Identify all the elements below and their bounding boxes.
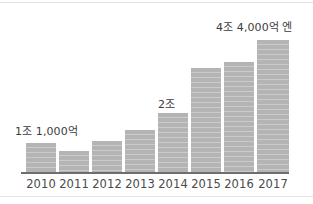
x-tick-label-2017: 2017 — [256, 177, 290, 191]
x-tick-label-2010: 2010 — [24, 177, 58, 191]
x-tick-label-2012: 2012 — [90, 177, 124, 191]
bar-2011 — [59, 151, 89, 172]
x-tick-label-2016: 2016 — [222, 177, 256, 191]
bar-chart-card: 2010 2011 2012 2013 2014 2015 2016 2017 … — [0, 0, 313, 204]
x-tick-label-2015: 2015 — [189, 177, 223, 191]
bar-2015 — [191, 68, 221, 172]
x-tick-label-2014: 2014 — [156, 177, 190, 191]
bar-2010 — [26, 143, 56, 172]
bar-2013 — [125, 130, 155, 172]
bar-2017 — [257, 40, 289, 172]
data-label-2017: 4조 4,000억 엔 — [216, 18, 293, 34]
data-label-2010: 1조 1,000억 — [15, 122, 78, 138]
bar-2016 — [224, 62, 254, 172]
bar-2012 — [92, 141, 122, 172]
bar-2014 — [158, 113, 188, 172]
x-tick-label-2011: 2011 — [57, 177, 91, 191]
data-label-2014: 2조 — [158, 95, 175, 111]
x-tick-label-2013: 2013 — [123, 177, 157, 191]
x-axis-line — [21, 172, 289, 174]
chart-plot-area: 2010 2011 2012 2013 2014 2015 2016 2017 … — [0, 0, 313, 204]
